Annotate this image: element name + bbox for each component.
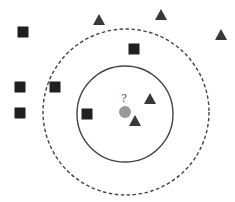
class-square-points	[15, 27, 140, 120]
square-icon	[15, 82, 26, 93]
square-icon	[50, 82, 61, 93]
triangle-icon	[155, 9, 167, 20]
square-icon	[129, 44, 140, 55]
query-point: ?	[119, 92, 131, 118]
query-circle-icon	[119, 106, 131, 118]
triangle-icon	[144, 93, 156, 104]
query-label: ?	[121, 92, 127, 105]
triangle-icon	[93, 14, 105, 25]
square-icon	[18, 27, 29, 38]
triangle-icon	[215, 29, 227, 40]
knn-diagram: ?	[0, 0, 235, 202]
square-icon	[15, 108, 26, 119]
triangle-icon	[129, 115, 141, 126]
square-icon	[82, 109, 93, 120]
